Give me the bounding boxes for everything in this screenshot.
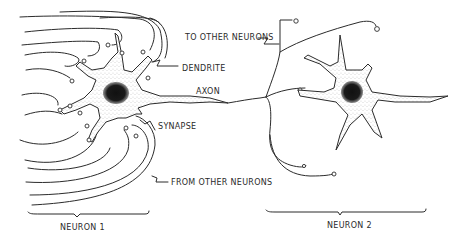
neuron-2-nucleus bbox=[341, 81, 363, 103]
dendrite-label: DENDRITE bbox=[182, 65, 226, 73]
axon bbox=[228, 97, 266, 103]
neuron-1-nucleus bbox=[103, 82, 129, 104]
label-leaders bbox=[140, 38, 279, 182]
braces bbox=[28, 209, 426, 217]
neuron-2-brace bbox=[266, 209, 426, 215]
neuron-2 bbox=[298, 35, 448, 150]
from-other-neurons-label: FROM OTHER NEURONS bbox=[171, 179, 272, 187]
axon-label: AXON bbox=[196, 88, 220, 96]
neuron-1-brace bbox=[28, 211, 149, 217]
incoming-fibers bbox=[20, 11, 167, 205]
to-other-neurons-label: TO OTHER NEURONS bbox=[185, 34, 274, 42]
neuron-2-label: NEURON 2 bbox=[327, 222, 372, 230]
synapse-label: SYNAPSE bbox=[158, 123, 196, 131]
neuron-1-label: NEURON 1 bbox=[60, 224, 105, 232]
neuron-2-soma bbox=[298, 35, 448, 150]
